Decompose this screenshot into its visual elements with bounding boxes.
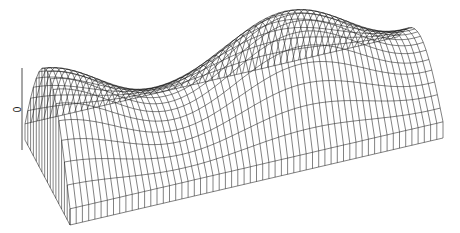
z-axis-tick-label: 0 [12, 107, 23, 113]
surface-plot [0, 0, 460, 233]
wireframe-mesh [25, 10, 443, 225]
